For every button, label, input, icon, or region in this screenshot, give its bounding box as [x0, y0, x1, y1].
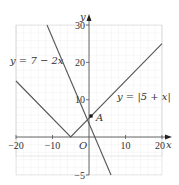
y-axis-arrow-icon — [87, 14, 92, 21]
label-line-7-minus-2x: y = 7 − 2x — [9, 55, 64, 66]
point-a-marker — [89, 114, 92, 117]
y-axis-label: y — [79, 11, 86, 22]
label-point-a: A — [95, 112, 103, 123]
y-tick-label: 10 — [75, 94, 85, 105]
x-axis-label: x — [166, 139, 172, 150]
x-tick-label: 20 — [155, 140, 165, 151]
x-tick-label: −20 — [8, 140, 24, 151]
label-line-abs-5-plus-x: y = |5 + x| — [116, 91, 171, 103]
x-tick-label: −10 — [45, 140, 61, 151]
x-tick-label: 10 — [121, 140, 131, 151]
origin-label: O — [79, 140, 87, 151]
y-tick-label: −5 — [74, 170, 85, 181]
y-tick-label: 20 — [75, 57, 85, 68]
graph: −20 −10 10 20 30 20 10 −5 O x y y = 7 − … — [0, 0, 179, 185]
